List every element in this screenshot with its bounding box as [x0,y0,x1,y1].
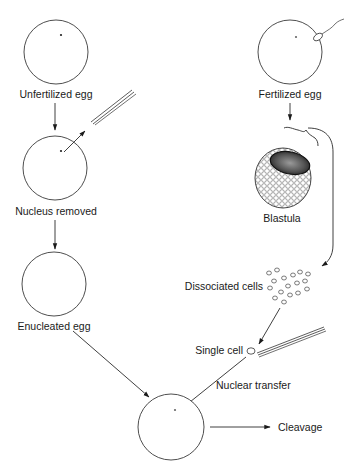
label-fertilized-egg: Fertilized egg [258,88,321,100]
nucleus-dot [295,36,297,38]
label-nuclear-transfer: Nuclear transfer [216,379,291,391]
nucleus-removed-egg: Nucleus removed [15,136,97,217]
sperm-icon [312,19,344,42]
arrow-blastula-to-dissociated [308,128,333,266]
fertilized-egg: Fertilized egg [258,19,344,100]
label-dissociated-cells: Dissociated cells [185,280,263,292]
label-nucleus-removed: Nucleus removed [15,205,97,217]
micropipette-icon [91,90,136,125]
blastula: Blastula [255,148,312,224]
enucleated-egg: Enucleated egg [18,252,91,332]
arrow-dissociated-to-single-cell [259,308,280,344]
micropipette-icon [257,327,326,357]
arrow-enucleated-to-recipient [73,331,149,397]
label-blastula: Blastula [263,212,301,224]
label-cleavage: Cleavage [278,421,323,433]
nucleus-dot [174,409,176,411]
label-unfertilized-egg: Unfertilized egg [20,88,93,100]
single-cell [247,348,255,354]
dissociated-cells [267,268,311,304]
nuclear-transfer-diagram: Unfertilized egg Nucleus removed Enuclea… [0,0,352,472]
label-enucleated-egg: Enucleated egg [18,320,91,332]
label-single-cell: Single cell [195,344,243,356]
recipient-egg [138,394,204,460]
nucleus-dot [60,150,62,152]
nucleus-dot [60,34,62,36]
unfertilized-egg: Unfertilized egg [20,20,93,100]
bracket [284,127,318,146]
